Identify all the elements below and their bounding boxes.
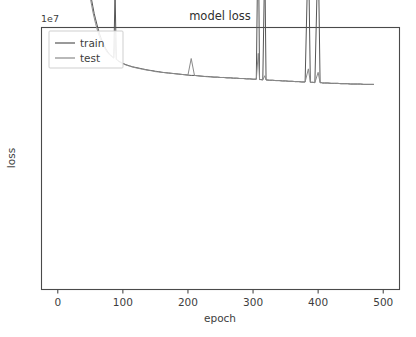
y-axis-offset-label: 1e7 — [41, 13, 59, 24]
y-axis-title: loss — [5, 148, 17, 168]
x-axis-title: epoch — [204, 312, 236, 324]
x-tick-label: 300 — [243, 296, 263, 308]
x-tick-label: 400 — [308, 296, 328, 308]
x-tick-label: 200 — [178, 296, 198, 308]
chart-title: model loss — [189, 9, 251, 23]
x-tick-label: 0 — [54, 296, 61, 308]
model-loss-line-chart: model loss 1e7 loss epoch 01002003004005… — [0, 0, 416, 337]
legend-label-train: train — [80, 37, 104, 49]
chart-legend[interactable]: traintest — [49, 31, 123, 68]
x-tick-label: 100 — [113, 296, 133, 308]
x-tick-label: 500 — [373, 296, 393, 308]
legend-label-test: test — [80, 52, 100, 64]
figure-canvas: model loss 1e7 loss epoch 01002003004005… — [0, 0, 416, 337]
